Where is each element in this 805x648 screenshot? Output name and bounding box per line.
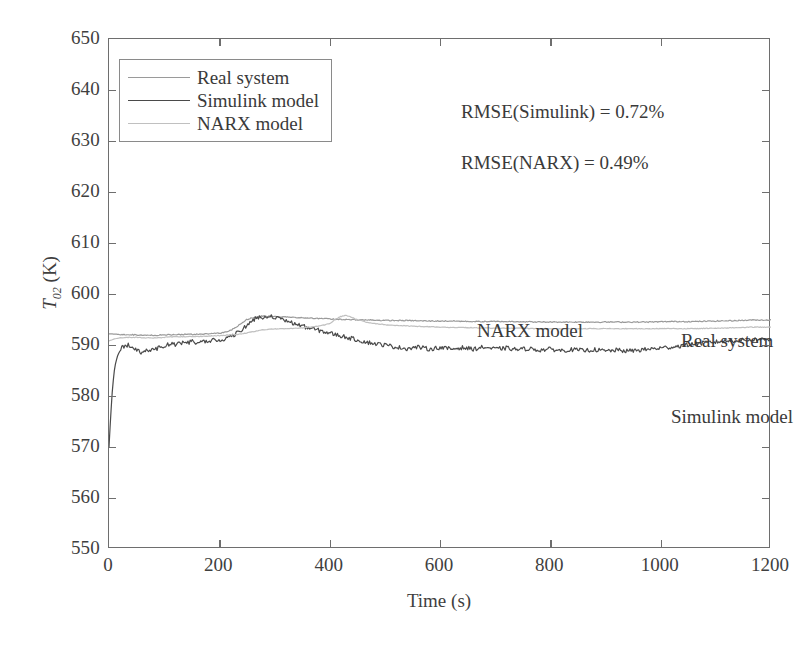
x-axis-tick-labels: 020040060080010001200 <box>108 554 770 580</box>
y-tick-label: 560 <box>71 486 100 508</box>
legend-item-label: Simulink model <box>197 91 319 110</box>
x-axis-tick <box>661 540 662 547</box>
figure-container: T02 (K) 55056057058059060061062063064065… <box>0 0 805 648</box>
y-tick-label: 620 <box>71 180 100 202</box>
x-axis-tick <box>550 39 551 46</box>
legend-item[interactable]: NARX model <box>128 112 319 135</box>
x-tick-label: 400 <box>314 554 343 576</box>
x-axis-tick <box>330 540 331 547</box>
x-axis-tick <box>440 540 441 547</box>
y-tick-label: 550 <box>71 537 100 559</box>
simulink-curve-annotation: Simulink model <box>671 406 793 428</box>
y-axis-tick <box>109 90 116 91</box>
x-axis-tick <box>440 39 441 46</box>
y-tick-label: 600 <box>71 282 100 304</box>
y-axis-tick <box>109 243 116 244</box>
legend-item-label: NARX model <box>197 114 303 133</box>
legend-line-swatch <box>128 123 190 124</box>
y-axis-tick <box>762 345 769 346</box>
x-tick-label: 0 <box>103 554 113 576</box>
y-axis-tick <box>109 345 116 346</box>
y-axis-tick <box>109 447 116 448</box>
x-axis-tick <box>550 540 551 547</box>
y-tick-label: 580 <box>71 384 100 406</box>
y-tick-label: 590 <box>71 333 100 355</box>
y-axis-tick <box>762 90 769 91</box>
y-axis-tick-labels: 550560570580590600610620630640650 <box>0 38 100 548</box>
y-axis-tick <box>762 243 769 244</box>
y-tick-label: 640 <box>71 78 100 100</box>
x-axis-tick <box>330 39 331 46</box>
x-tick-label: 1000 <box>641 554 679 576</box>
legend-item[interactable]: Simulink model <box>128 89 319 112</box>
real-system-curve-annotation: Real system <box>681 330 773 352</box>
y-axis-tick <box>762 294 769 295</box>
x-tick-label: 1200 <box>751 554 789 576</box>
y-axis-tick <box>109 141 116 142</box>
y-tick-label: 610 <box>71 231 100 253</box>
y-axis-tick <box>762 141 769 142</box>
y-axis-tick <box>762 498 769 499</box>
series-line-real-system <box>109 316 771 336</box>
y-tick-label: 570 <box>71 435 100 457</box>
x-axis-tick <box>219 540 220 547</box>
y-axis-tick <box>109 498 116 499</box>
rmse-simulink-annotation: RMSE(Simulink) = 0.72% <box>461 101 664 123</box>
series-line-narx-model <box>109 315 771 341</box>
x-tick-label: 600 <box>425 554 454 576</box>
narx-curve-annotation: NARX model <box>477 320 583 342</box>
y-axis-tick <box>762 447 769 448</box>
chart-legend: Real systemSimulink modelNARX model <box>119 59 332 142</box>
y-axis-tick <box>762 396 769 397</box>
y-axis-tick <box>762 192 769 193</box>
x-tick-label: 800 <box>535 554 564 576</box>
legend-line-swatch <box>128 77 190 78</box>
x-axis-tick <box>219 39 220 46</box>
y-tick-label: 630 <box>71 129 100 151</box>
rmse-narx-annotation: RMSE(NARX) = 0.49% <box>461 152 649 174</box>
plot-area: Real systemSimulink modelNARX model RMSE… <box>108 38 770 548</box>
x-axis-tick <box>661 39 662 46</box>
y-axis-tick <box>109 192 116 193</box>
y-tick-label: 650 <box>71 27 100 49</box>
x-tick-label: 200 <box>204 554 233 576</box>
legend-line-swatch <box>128 100 190 101</box>
legend-item-label: Real system <box>197 68 289 87</box>
y-axis-tick <box>109 396 116 397</box>
x-axis-title: Time (s) <box>108 590 770 612</box>
y-axis-tick <box>109 294 116 295</box>
legend-item[interactable]: Real system <box>128 66 319 89</box>
